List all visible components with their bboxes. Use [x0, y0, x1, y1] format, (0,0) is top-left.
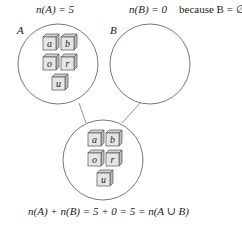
svg-text:o: o	[47, 58, 52, 69]
svg-text:b: b	[110, 134, 115, 145]
element-cube-r: r	[106, 150, 122, 166]
union-cubes: aboru	[88, 130, 122, 186]
connector-b	[122, 103, 140, 123]
connector-a	[79, 103, 86, 123]
diagram-canvas: aboru aboru	[0, 0, 242, 226]
svg-text:o: o	[92, 154, 97, 165]
element-cube-o: o	[43, 54, 59, 70]
svg-text:r: r	[66, 58, 70, 69]
circle-set-b	[110, 24, 190, 104]
label-because: because B = ∅	[179, 4, 242, 15]
element-cube-b: b	[61, 34, 77, 50]
element-cube-u: u	[97, 170, 113, 186]
label-n-b: n(B) = 0	[129, 4, 167, 15]
svg-text:u: u	[56, 78, 61, 89]
element-cube-a: a	[88, 130, 104, 146]
svg-text:r: r	[111, 154, 115, 165]
svg-text:a: a	[47, 38, 52, 49]
element-cube-r: r	[61, 54, 77, 70]
element-cube-b: b	[106, 130, 122, 146]
svg-text:u: u	[101, 174, 106, 185]
set-a-cubes: aboru	[43, 34, 77, 90]
svg-text:b: b	[65, 38, 70, 49]
svg-text:a: a	[92, 134, 97, 145]
element-cube-u: u	[52, 74, 68, 90]
label-n-a: n(A) = 5	[36, 4, 74, 15]
label-set-a: A	[17, 25, 24, 36]
element-cube-a: a	[43, 34, 59, 50]
label-set-b: B	[110, 25, 117, 36]
label-equation: n(A) + n(B) = 5 + 0 = 5 = n(A ∪ B)	[28, 206, 189, 217]
element-cube-o: o	[88, 150, 104, 166]
